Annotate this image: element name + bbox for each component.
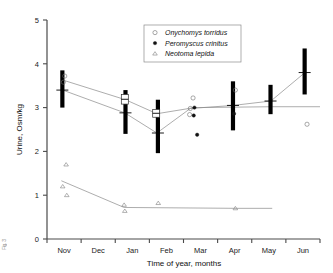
data-point (193, 106, 196, 109)
y-tick-label: 3 (35, 103, 39, 112)
y-tick-label: 4 (35, 60, 39, 69)
y-axis-tick-labels: 012345 (35, 16, 39, 244)
x-tick-label: Apr (229, 246, 241, 255)
range-bars-layer (56, 48, 310, 153)
x-tick-label: Mar (194, 246, 207, 255)
x-tick-label: Nov (57, 246, 71, 255)
trend-line (61, 181, 272, 209)
trend-lines-layer (61, 73, 320, 209)
data-point (188, 113, 192, 117)
figure-panel: Fig. 3 012345 NovDecJanFebMarAprMayJun U… (0, 0, 333, 273)
data-point (60, 184, 65, 187)
data-point (122, 209, 127, 212)
y-tick-label: 1 (35, 191, 39, 200)
y-axis-title: Urine, Osm/kg (15, 104, 24, 155)
x-tick-label: Jan (126, 246, 138, 255)
data-point (192, 114, 195, 117)
x-axis-ticks (47, 239, 320, 243)
x-axis-tick-labels: NovDecJanFebMarAprMayJun (57, 246, 309, 255)
data-point (232, 112, 235, 115)
data-point (191, 96, 195, 100)
legend-label: Onychomys torridus (165, 29, 228, 37)
trend-line (64, 80, 320, 113)
x-tick-label: Dec (92, 246, 106, 255)
y-tick-label: 0 (35, 235, 39, 244)
chart-legend: Onychomys torridusPeromyscus crinitusNeo… (144, 25, 241, 62)
data-point (156, 201, 161, 204)
y-tick-label: 2 (35, 147, 39, 156)
x-tick-label: Jun (297, 246, 309, 255)
data-point (305, 122, 309, 126)
x-tick-label: Feb (160, 246, 173, 255)
legend-label: Peromyscus crinitus (165, 40, 228, 48)
x-tick-label: May (262, 246, 276, 255)
data-point (64, 193, 69, 196)
x-axis-title: Time of year, months (147, 259, 221, 268)
data-point (122, 203, 127, 206)
data-point (195, 133, 198, 136)
data-point (64, 163, 69, 166)
chart-canvas: 012345 NovDecJanFebMarAprMayJun Urine, O… (0, 0, 333, 273)
legend-label: Neotoma lepida (165, 50, 214, 58)
y-tick-label: 5 (35, 16, 39, 25)
legend-marker (153, 41, 156, 44)
